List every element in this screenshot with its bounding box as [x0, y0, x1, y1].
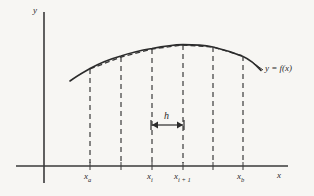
tick-label-xb-sub: b — [241, 176, 244, 183]
y-axis-label: y — [33, 6, 37, 15]
curve-label: y = f(x) — [265, 64, 292, 73]
function-curve — [70, 45, 261, 81]
figure-canvas: y x y = f(x) h xa xi xi + 1 xb — [0, 0, 314, 196]
ordinate-dashed-lines — [90, 45, 243, 163]
tick-label-xi-sub: i — [151, 176, 153, 183]
h-arrow-head-right — [177, 122, 183, 129]
tick-label-xi-plus-1: xi + 1 — [174, 172, 191, 183]
h-arrow-head-left — [152, 122, 158, 129]
h-measure-arrow — [151, 120, 184, 130]
tick-label-xi-plus-1-sub: i + 1 — [178, 176, 191, 183]
h-label: h — [164, 111, 169, 121]
x-axis-label: x — [277, 171, 281, 180]
tick-label-xi: xi — [147, 172, 153, 183]
curve-label-leader — [252, 62, 263, 70]
tick-label-xa: xa — [84, 172, 91, 183]
tick-label-xa-sub: a — [88, 176, 91, 183]
tick-label-xb: xb — [237, 172, 244, 183]
figure-svg — [0, 0, 314, 196]
